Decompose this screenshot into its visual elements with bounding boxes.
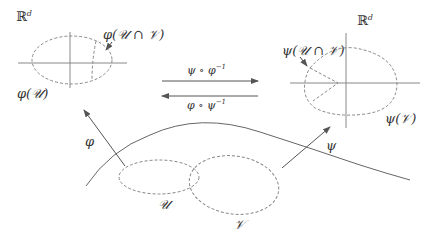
phi-intersection-boundary — [92, 41, 96, 80]
right-space-label: ℝd — [357, 14, 373, 27]
v-region — [185, 150, 282, 220]
psi-intersection-boundary — [310, 68, 338, 101]
forward-transition-label: ψ ∘ φ−1 — [187, 64, 226, 76]
psi-v-label: ψ(𝒱) — [385, 112, 416, 125]
psi-intersection-label: ψ(𝒰 ∩ 𝒱) — [282, 44, 345, 57]
psi-chart-label: ψ — [326, 139, 336, 152]
manifold-curve — [86, 123, 410, 186]
phi-intersection-label: φ(𝒰 ∩ 𝒱) — [103, 28, 164, 41]
u-set-label: 𝒰 — [158, 198, 170, 211]
diagram-graphics — [0, 0, 431, 248]
manifold-chart-diagram: ℝd φ(𝒰 ∩ 𝒱) φ(𝒰) ℝd ψ(𝒰 ∩ 𝒱) ψ(𝒱) ψ ∘ φ−… — [0, 0, 431, 248]
psi-chart-arrow — [282, 127, 330, 168]
u-region — [119, 160, 199, 194]
left-space-label: ℝd — [16, 10, 32, 23]
v-set-label: 𝒱 — [234, 218, 245, 231]
phi-u-label: φ(𝒰) — [17, 87, 48, 100]
backward-transition-label: φ ∘ ψ−1 — [187, 99, 226, 111]
phi-u-region — [32, 36, 112, 84]
phi-chart-label: φ — [85, 135, 94, 148]
